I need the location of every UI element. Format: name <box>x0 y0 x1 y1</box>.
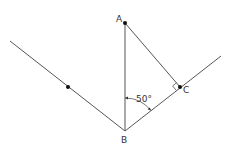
segment-ac <box>125 23 180 87</box>
point-d <box>66 85 70 89</box>
angle-label: 50° <box>136 94 152 104</box>
point-a <box>123 21 127 25</box>
right-angle-marker <box>173 83 177 90</box>
geometry-diagram: A B C 50° <box>0 0 234 148</box>
label-c: C <box>183 85 189 95</box>
point-c <box>178 85 182 89</box>
label-b: B <box>121 135 127 145</box>
label-a: A <box>116 14 123 24</box>
